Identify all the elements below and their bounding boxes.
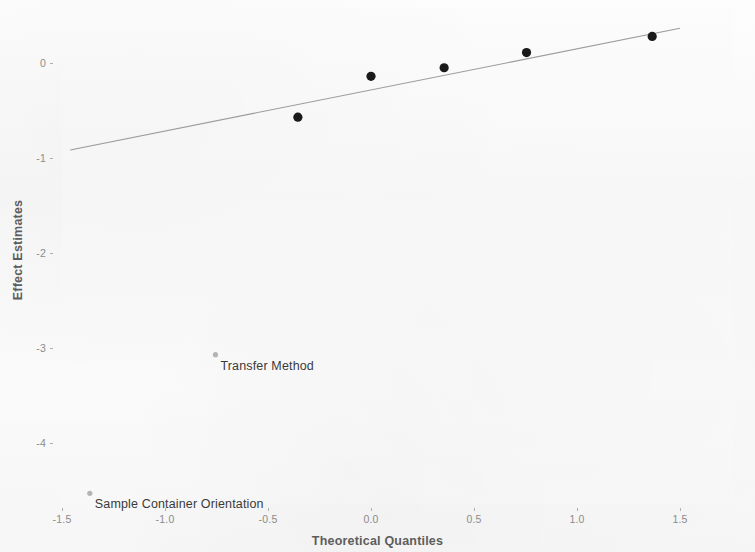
y-tick-mark xyxy=(50,348,53,349)
y-tick-label: -1 xyxy=(18,152,46,164)
x-tick-label: 0.5 xyxy=(466,513,481,525)
y-tick-mark xyxy=(50,63,53,64)
x-tick-mark xyxy=(62,508,63,511)
x-tick-label: -0.5 xyxy=(259,513,278,525)
point-annotation-label: Sample Container Orientation xyxy=(95,497,264,511)
x-tick-mark xyxy=(268,508,269,511)
x-tick-label: 1.5 xyxy=(672,513,687,525)
x-tick-label: -1.5 xyxy=(53,513,72,525)
x-axis-title: Theoretical Quantiles xyxy=(0,534,755,548)
y-tick-mark xyxy=(50,443,53,444)
x-tick-mark xyxy=(474,508,475,511)
qq-plot-figure: -1.5-1.0-0.50.00.51.01.5 0-1-2-3-4 Sampl… xyxy=(0,0,755,552)
x-tick-label: 0.0 xyxy=(363,513,378,525)
y-tick-label: -4 xyxy=(18,437,46,449)
x-tick-mark xyxy=(577,508,578,511)
x-tick-mark xyxy=(680,508,681,511)
y-tick-mark xyxy=(50,158,53,159)
x-tick-label: 1.0 xyxy=(569,513,584,525)
point-annotation-label: Transfer Method xyxy=(220,359,314,373)
x-tick-label: -1.0 xyxy=(156,513,175,525)
x-tick-mark xyxy=(371,508,372,511)
y-tick-label: -3 xyxy=(18,342,46,354)
y-tick-label: 0 xyxy=(18,57,46,69)
y-tick-mark xyxy=(50,253,53,254)
y-axis-title: Effect Estimates xyxy=(11,170,25,330)
plot-panel xyxy=(62,8,734,504)
